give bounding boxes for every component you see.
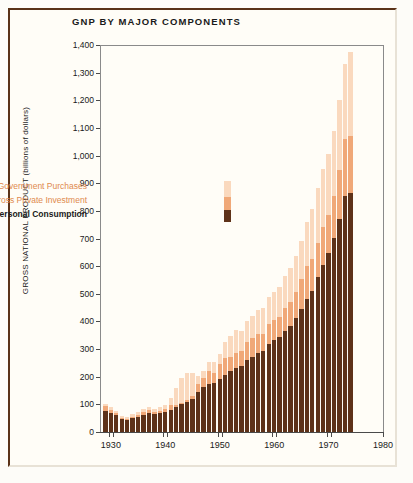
bar-segment bbox=[185, 400, 189, 402]
bar-segment bbox=[147, 407, 151, 410]
bar-column bbox=[337, 100, 341, 432]
bar-column bbox=[261, 308, 265, 432]
bar-segment bbox=[256, 310, 260, 334]
y-axis-tick-labels: 01002003004005006007008009001,0001,1001,… bbox=[58, 0, 94, 483]
y-axis-tick-label: 400 bbox=[60, 316, 94, 326]
y-axis-tick-label: 0 bbox=[60, 427, 94, 437]
y-axis-tick-label: 500 bbox=[60, 289, 94, 299]
bar-segment bbox=[245, 321, 249, 342]
page-title: GNP BY MAJOR COMPONENTS bbox=[72, 16, 241, 27]
bar-segment bbox=[190, 373, 194, 396]
bar-segment bbox=[310, 209, 314, 259]
bar-segment bbox=[250, 357, 254, 432]
legend-swatch-government bbox=[224, 181, 231, 197]
y-axis-tick-label: 1,100 bbox=[60, 123, 94, 133]
bar-column bbox=[299, 241, 303, 432]
bar-column bbox=[267, 297, 271, 432]
bar-segment bbox=[283, 331, 287, 432]
bar-segment bbox=[212, 383, 216, 432]
bar-segment bbox=[239, 331, 243, 352]
bar-segment bbox=[190, 396, 194, 399]
bar-column bbox=[185, 373, 189, 432]
legend-swatch-stack bbox=[224, 181, 231, 222]
bar-segment bbox=[343, 139, 347, 197]
bar-segment bbox=[158, 411, 162, 413]
x-axis-tick-label: 1980 bbox=[373, 440, 393, 450]
bar-segment bbox=[141, 415, 145, 432]
bar-column bbox=[283, 276, 287, 432]
bar-segment bbox=[299, 309, 303, 432]
bar-segment bbox=[179, 403, 183, 405]
bar-column bbox=[207, 362, 211, 432]
bar-segment bbox=[130, 417, 134, 418]
bar-column bbox=[212, 362, 216, 432]
bar-segment bbox=[299, 241, 303, 279]
bar-segment bbox=[228, 371, 232, 432]
bar-segment bbox=[201, 378, 205, 387]
bar-column bbox=[163, 405, 167, 432]
x-axis-tick-label: 1950 bbox=[210, 440, 230, 450]
bar-column bbox=[277, 287, 281, 432]
bar-segment bbox=[196, 392, 200, 432]
bar-column bbox=[109, 407, 113, 432]
legend-swatch-consumption bbox=[224, 210, 231, 222]
bar-column bbox=[332, 131, 336, 432]
plot-axis-bottom bbox=[100, 432, 384, 433]
bar-segment bbox=[316, 243, 320, 278]
bar-segment bbox=[326, 215, 330, 253]
bar-segment bbox=[267, 324, 271, 345]
bar-column bbox=[239, 331, 243, 432]
x-axis-tick-mark bbox=[222, 433, 223, 437]
bar-segment bbox=[207, 371, 211, 384]
x-axis-tick-mark bbox=[113, 433, 114, 437]
bar-column bbox=[158, 407, 162, 432]
bar-segment bbox=[277, 287, 281, 317]
bar-segment bbox=[294, 292, 298, 318]
bar-column bbox=[179, 378, 183, 432]
bar-segment bbox=[261, 308, 265, 334]
y-axis-tick-label: 600 bbox=[60, 261, 94, 271]
bar-segment bbox=[196, 384, 200, 393]
x-axis-tick-mark bbox=[167, 433, 168, 437]
bar-column bbox=[245, 321, 249, 432]
bar-column bbox=[272, 292, 276, 432]
x-axis-tick-label: 1970 bbox=[319, 440, 339, 450]
bar-segment bbox=[332, 238, 336, 432]
bar-segment bbox=[277, 337, 281, 432]
bar-segment bbox=[348, 136, 352, 194]
bar-segment bbox=[125, 417, 129, 419]
bar-segment bbox=[272, 320, 276, 341]
bar-segment bbox=[283, 308, 287, 331]
plot-area bbox=[100, 46, 383, 432]
bar-segment bbox=[103, 404, 107, 406]
bar-segment bbox=[179, 404, 183, 432]
bar-segment bbox=[174, 388, 178, 405]
bar-segment bbox=[316, 277, 320, 432]
bar-segment bbox=[250, 316, 254, 338]
bar-segment bbox=[136, 415, 140, 417]
bar-segment bbox=[169, 405, 173, 410]
bar-segment bbox=[147, 413, 151, 432]
bar-column bbox=[294, 256, 298, 432]
bar-segment bbox=[272, 340, 276, 432]
bar-segment bbox=[174, 407, 178, 432]
bar-column bbox=[196, 376, 200, 432]
bar-segment bbox=[223, 342, 227, 359]
bar-segment bbox=[239, 366, 243, 432]
bar-segment bbox=[343, 64, 347, 138]
bar-column bbox=[250, 316, 254, 432]
bar-segment bbox=[130, 418, 134, 432]
y-axis-tick-label: 100 bbox=[60, 399, 94, 409]
bar-segment bbox=[245, 360, 249, 432]
bar-column bbox=[288, 268, 292, 432]
y-axis-tick-label: 300 bbox=[60, 344, 94, 354]
y-axis-tick-label: 200 bbox=[60, 372, 94, 382]
bar-segment bbox=[185, 373, 189, 400]
x-axis-tick-mark bbox=[163, 433, 164, 437]
bar-segment bbox=[261, 334, 265, 351]
bar-column bbox=[114, 411, 118, 432]
bar-segment bbox=[234, 368, 238, 432]
bar-segment bbox=[326, 154, 330, 215]
bar-segment bbox=[256, 353, 260, 432]
bar-column bbox=[147, 407, 151, 432]
